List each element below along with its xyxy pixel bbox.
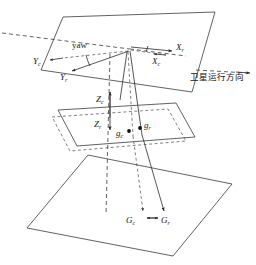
ray-to-g-r xyxy=(130,51,142,135)
projection-rays-group xyxy=(106,51,164,215)
ground-plane xyxy=(27,155,232,256)
point-g-c xyxy=(127,129,131,133)
label-satellite-direction: 卫星运行方向 xyxy=(190,72,244,82)
bottom-plane-group xyxy=(27,155,232,256)
nadir-axis-dashed xyxy=(106,54,110,215)
axis-x-c-arrow xyxy=(154,54,166,55)
image-plane-solid xyxy=(58,103,195,146)
label-yaw: yaw xyxy=(72,40,87,50)
cone-edge-ray xyxy=(120,52,127,100)
axis-x-r xyxy=(131,47,172,51)
point-g-r xyxy=(138,126,142,130)
label-z-r: Zr xyxy=(94,119,102,130)
diagram-canvas: yaw Xr Xc Yc Yr Zc Zr xyxy=(0,0,256,265)
labels-group: yaw Xr Xc Yc Yr Zc Zr xyxy=(33,40,244,226)
label-g-r: gr xyxy=(144,120,152,131)
label-x-r: Xr xyxy=(175,42,185,53)
axis-y-c-arrow xyxy=(50,58,63,60)
label-x-c: Xc xyxy=(151,56,161,67)
label-y-c: Yc xyxy=(33,56,41,67)
label-G-c: Gc xyxy=(126,215,136,226)
orbit-axis-dashed-left xyxy=(2,33,130,49)
ray-g-c-to-G-c-dashed xyxy=(133,136,143,211)
satellite-yaw-geometry-diagram: yaw Xr Xc Yc Yr Zc Zr xyxy=(0,0,256,265)
ray-g-r-to-G-r xyxy=(142,135,164,211)
label-G-r: Gr xyxy=(161,215,171,226)
label-g-c: gc xyxy=(116,128,124,139)
middle-plane-group xyxy=(52,103,195,151)
label-z-c: Zc xyxy=(96,94,104,105)
yaw-angle-arc xyxy=(86,55,90,66)
